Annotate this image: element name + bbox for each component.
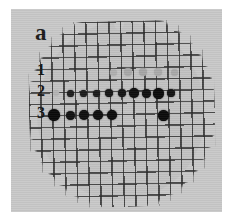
colony-spot-row-2 <box>80 90 87 97</box>
colony-spot-row-2 <box>53 90 59 96</box>
colony-spot-row-3 <box>93 110 103 120</box>
colony-spot-row-3 <box>107 110 117 120</box>
micrograph-panel: 123 a <box>11 9 222 212</box>
colony-spot-row-2 <box>129 88 139 98</box>
colony-spot-row-2 <box>67 90 74 97</box>
colony-spot-row-1 <box>154 68 162 76</box>
colony-spot-row-1 <box>110 69 117 76</box>
row-label-3: 3 <box>37 105 45 121</box>
row-label-1: 1 <box>37 62 45 78</box>
colony-spot-row-3 <box>158 110 169 121</box>
colony-spot-row-2 <box>118 89 126 97</box>
panel-letter: a <box>35 21 47 44</box>
colony-spot-row-3 <box>79 110 89 120</box>
figure-panel: 123 a <box>0 0 234 221</box>
colony-spot-row-3 <box>66 111 75 120</box>
colony-spot-row-1 <box>171 69 178 76</box>
colony-spot-row-2 <box>142 89 151 98</box>
colony-spot-row-2 <box>93 90 100 97</box>
colony-spot-row-2 <box>105 89 113 97</box>
colony-spot-row-2 <box>153 88 164 99</box>
row-label-2: 2 <box>37 83 45 99</box>
colony-spot-row-1 <box>124 68 132 76</box>
colony-spot-row-2 <box>167 89 175 97</box>
colony-spot-row-1 <box>139 68 147 76</box>
colony-spot-row-3 <box>48 109 60 121</box>
